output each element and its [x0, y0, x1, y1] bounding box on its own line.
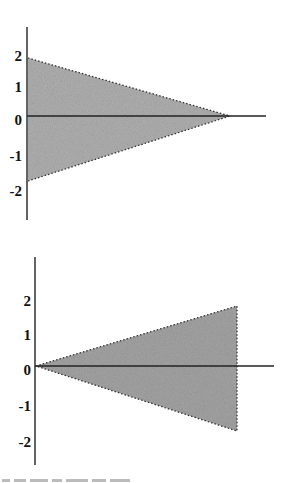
top-tick-2: 2 — [15, 48, 23, 64]
top-tick-neg2: -2 — [10, 183, 23, 199]
top-tick-neg1: -1 — [10, 148, 23, 164]
cut-off-caption — [2, 479, 130, 482]
top-tick-1: 1 — [15, 79, 23, 95]
figure: 2 1 0 -1 -2 2 1 0 -1 -2 — [0, 0, 290, 483]
bottom-tick-0: 0 — [24, 362, 32, 378]
top-chart: 2 1 0 -1 -2 — [10, 27, 267, 220]
bottom-tick-neg1: -1 — [19, 398, 32, 414]
bottom-tick-1: 1 — [24, 327, 32, 343]
bottom-wedge-fill — [36, 306, 237, 431]
bottom-chart: 2 1 0 -1 -2 — [19, 257, 275, 465]
bottom-tick-2: 2 — [24, 293, 32, 309]
top-wedge-fill — [28, 58, 230, 181]
bottom-tick-neg2: -2 — [19, 434, 32, 450]
top-tick-0: 0 — [15, 112, 23, 128]
